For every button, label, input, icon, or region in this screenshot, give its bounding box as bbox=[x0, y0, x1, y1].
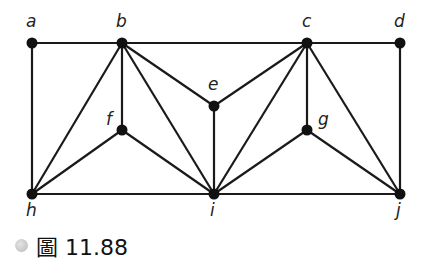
vertex-label-h: h bbox=[26, 200, 37, 220]
edge-f-h bbox=[32, 130, 122, 194]
vertex-b bbox=[117, 38, 128, 49]
edge-b-e bbox=[122, 43, 214, 106]
graph-edges bbox=[32, 43, 400, 194]
figure-caption: 圖 11.88 bbox=[15, 229, 128, 261]
vertex-label-a: a bbox=[26, 11, 36, 31]
vertex-f bbox=[117, 125, 128, 136]
vertex-e bbox=[209, 101, 220, 112]
vertex-label-b: b bbox=[116, 11, 127, 31]
vertex-label-j: j bbox=[394, 200, 401, 220]
edge-b-i bbox=[122, 43, 214, 194]
edge-f-i bbox=[122, 130, 214, 194]
vertex-label-e: e bbox=[208, 74, 218, 94]
graph-diagram: abcdefghij bbox=[0, 0, 421, 225]
vertex-d bbox=[395, 38, 406, 49]
vertex-label-g: g bbox=[318, 109, 329, 129]
edge-c-i bbox=[214, 43, 307, 194]
edge-g-j bbox=[307, 130, 400, 194]
vertex-c bbox=[302, 38, 313, 49]
vertex-j bbox=[395, 189, 406, 200]
vertex-i bbox=[209, 189, 220, 200]
vertex-g bbox=[302, 125, 313, 136]
vertex-a bbox=[27, 38, 38, 49]
vertex-label-c: c bbox=[302, 11, 312, 31]
caption-text: 圖 11.88 bbox=[36, 229, 128, 261]
vertex-label-f: f bbox=[106, 109, 115, 129]
vertex-label-i: i bbox=[210, 200, 215, 220]
graph-nodes bbox=[27, 38, 406, 200]
vertex-label-d: d bbox=[394, 11, 405, 31]
bullet-icon bbox=[15, 239, 28, 252]
edge-g-i bbox=[214, 130, 307, 194]
edge-c-e bbox=[214, 43, 307, 106]
vertex-h bbox=[27, 189, 38, 200]
